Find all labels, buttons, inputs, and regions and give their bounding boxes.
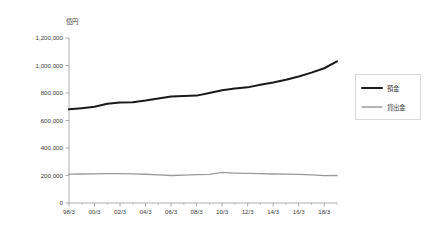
y-tick-label: 1,000,000: [35, 62, 63, 69]
x-tick-label: 10/3: [216, 208, 229, 215]
y-axis-unit-label: 億円: [66, 17, 78, 26]
series-line-deposits: [69, 61, 337, 109]
line-chart: 0200,000400,000600,000800,0001,000,0001,…: [0, 0, 439, 239]
y-tick-label: 200,000: [41, 172, 64, 179]
y-tick-label: 600,000: [41, 117, 64, 124]
series-lines: [69, 61, 337, 175]
y-tick-label: 800,000: [41, 89, 64, 96]
chart-axes: [69, 38, 337, 203]
chart-page: 0200,000400,000600,000800,0001,000,0001,…: [0, 0, 439, 239]
y-tick-label: 0: [60, 199, 64, 206]
y-tick-labels: 0200,000400,000600,000800,0001,000,0001,…: [35, 34, 63, 206]
x-tick-label: 14/3: [267, 208, 280, 215]
x-tick-label: 18/3: [318, 208, 331, 215]
x-tick-label: 06/3: [165, 208, 178, 215]
legend: 預金 貸出金: [356, 75, 421, 120]
x-tick-label: 02/3: [114, 208, 127, 215]
x-tick-label: 00/3: [89, 208, 102, 215]
y-tick-label: 400,000: [41, 144, 64, 151]
x-tick-marks: [69, 203, 337, 207]
x-tick-label: 98/3: [63, 208, 76, 215]
x-tick-label: 12/3: [242, 208, 255, 215]
x-tick-label: 16/3: [293, 208, 306, 215]
x-tick-label: 04/3: [140, 208, 153, 215]
legend-box: [356, 75, 421, 120]
x-tick-labels: 98/300/302/304/306/308/310/312/314/316/3…: [63, 208, 331, 215]
x-tick-label: 08/3: [191, 208, 204, 215]
y-tick-label: 1,200,000: [35, 34, 63, 41]
y-tick-marks: [66, 38, 70, 203]
legend-label-deposits: 預金: [387, 84, 400, 93]
series-line-loans: [69, 172, 337, 175]
legend-label-loans: 貸出金: [387, 103, 406, 112]
